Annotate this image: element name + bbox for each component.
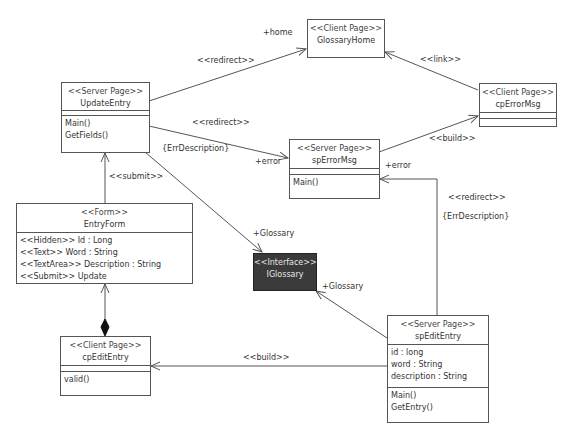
label-submit: <<submit>> [109, 172, 163, 181]
attribute: <<Text>> Word : String [20, 247, 189, 259]
class-name: cpEditEntry [61, 352, 150, 364]
attribute: description : String [391, 371, 485, 383]
class-name: spErrorMsg [290, 155, 379, 167]
label-glossary-role-1: +Glossary [253, 229, 294, 238]
attribute: <<Hidden>> Id : Long [20, 235, 189, 247]
label-error-role-1: +error [255, 157, 281, 166]
composition-diamond-icon [101, 319, 109, 336]
node-update-entry[interactable]: <<Server Page>> UpdateEntry Main() GetFi… [61, 82, 150, 153]
attribute: <<TextArea>> Description : String [20, 259, 189, 271]
method: GetFields() [65, 130, 146, 142]
node-sp-edit-entry[interactable]: <<Server Page>> spEditEntry id : long wo… [387, 315, 489, 423]
stereotype: <<Interface>> [254, 257, 316, 269]
label-err-desc-2: {ErrDescription} [442, 212, 509, 221]
method: Main() [65, 118, 146, 130]
attribute: word : String [391, 359, 485, 371]
node-entry-form[interactable]: <<Form>> EntryForm <<Hidden>> Id : Long … [16, 203, 193, 284]
label-redirect-home: <<redirect>> [197, 56, 255, 65]
class-name: spEditEntry [388, 331, 488, 343]
stereotype: <<Client Page>> [308, 23, 384, 35]
class-name: UpdateEntry [62, 98, 149, 110]
label-home-role: +home [263, 28, 292, 37]
label-redirect-error: <<redirect>> [192, 118, 250, 127]
edge-redirect-edit [380, 179, 437, 315]
node-iglossary[interactable]: <<Interface>> IGlossary [253, 253, 317, 291]
method: GetEntry() [391, 402, 485, 414]
label-build-edit: <<build>> [243, 353, 289, 362]
label-redirect-edit: <<redirect>> [448, 193, 506, 202]
node-cp-edit-entry[interactable]: <<Client Page>> cpEditEntry valid() [60, 336, 151, 396]
label-build-error: <<build>> [429, 134, 475, 143]
stereotype: <<Server Page>> [62, 86, 149, 98]
stereotype: <<Server Page>> [290, 143, 379, 155]
class-name: GlossaryHome [308, 35, 384, 47]
attribute: <<Submit>> Update [20, 271, 189, 283]
edge-glossary-2 [316, 291, 387, 338]
label-err-desc-1: {ErrDescription} [162, 144, 229, 153]
stereotype: <<Client Page>> [480, 87, 556, 99]
class-name: EntryForm [17, 219, 192, 231]
method: Main() [391, 390, 485, 402]
stereotype: <<Client Page>> [61, 340, 150, 352]
edge-redirect-error [149, 126, 288, 158]
stereotype: <<Server Page>> [388, 319, 488, 331]
class-name: cpErrorMsg [480, 99, 556, 111]
node-sp-error-msg[interactable]: <<Server Page>> spErrorMsg Main() [289, 139, 380, 199]
method: Main() [293, 177, 376, 189]
label-glossary-role-2: +Glossary [322, 282, 363, 291]
method: valid() [64, 374, 147, 386]
label-error-role-2: +error [385, 161, 411, 170]
stereotype: <<Form>> [17, 207, 192, 219]
label-link: <<link>> [420, 55, 461, 64]
node-cp-error-msg[interactable]: <<Client Page>> cpErrorMsg [479, 83, 557, 127]
class-name: IGlossary [254, 269, 316, 281]
node-glossary-home[interactable]: <<Client Page>> GlossaryHome [307, 19, 385, 58]
attribute: id : long [391, 347, 485, 359]
